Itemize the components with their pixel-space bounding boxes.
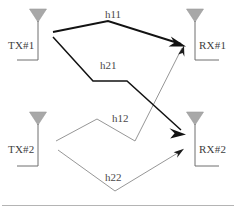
- path-h12-arrowhead: [178, 46, 184, 57]
- node-label-tx1: TX#1: [8, 40, 34, 51]
- node-label-tx2: TX#2: [8, 144, 34, 155]
- path-h22: [58, 149, 184, 191]
- path-h11: [53, 21, 186, 47]
- path-label-h22: h22: [105, 172, 122, 183]
- figure-canvas: TX#1 TX#2 RX#1 RX#2 h11 h21 h12 h22: [0, 0, 236, 214]
- path-h22-arrowhead: [174, 149, 184, 158]
- path-h11-line: [53, 21, 181, 44]
- path-label-h21: h21: [100, 60, 117, 71]
- node-tx2: [17, 112, 47, 166]
- node-rx2: [187, 112, 220, 166]
- node-tx1: [17, 9, 47, 60]
- node-label-rx2: RX#2: [199, 144, 226, 155]
- path-label-h11: h11: [105, 9, 121, 20]
- node-label-rx1: RX#1: [199, 40, 226, 51]
- path-h12: [56, 46, 184, 142]
- path-h21-arrowhead: [169, 128, 186, 138]
- path-label-h12: h12: [112, 113, 129, 124]
- antenna-icon: [30, 9, 47, 22]
- antenna-icon: [187, 9, 204, 22]
- antenna-icon: [30, 112, 47, 125]
- node-rx1: [187, 9, 220, 60]
- antenna-icon: [187, 112, 204, 125]
